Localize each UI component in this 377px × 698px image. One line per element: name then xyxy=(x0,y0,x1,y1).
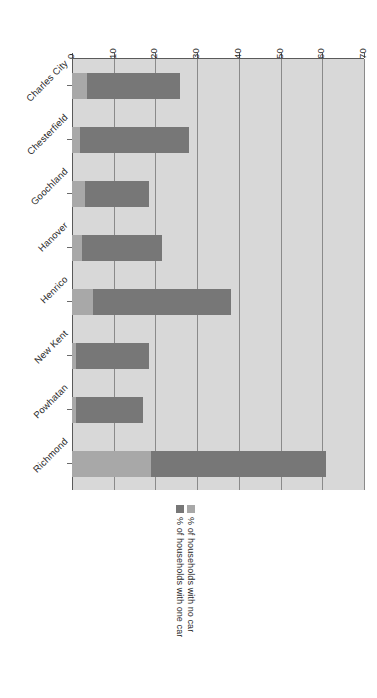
bar-row xyxy=(72,235,364,261)
legend-item[interactable]: % of households with one car xyxy=(175,505,185,637)
bar-stack xyxy=(72,73,180,99)
legend-label: % of households with one car xyxy=(175,517,185,637)
chart-legend: % of households with one car% of househo… xyxy=(185,505,225,685)
category-label-hanover: Hanover xyxy=(20,220,70,270)
bar-row xyxy=(72,397,364,423)
category-label-charles-city: Charles City xyxy=(20,58,70,108)
gridline-70 xyxy=(364,59,365,490)
bar-stack xyxy=(72,397,143,423)
legend-item[interactable]: % of households with no car xyxy=(186,505,196,632)
bar-stack xyxy=(72,451,326,477)
bar-stack xyxy=(72,181,149,207)
bar-segment xyxy=(93,289,231,315)
bar-row xyxy=(72,343,364,369)
category-label-powhatan: Powhatan xyxy=(20,382,70,432)
chart-figure: 010203040506070 Charles CityChesterfield… xyxy=(0,0,377,698)
bar-stack xyxy=(72,127,189,153)
bar-segment xyxy=(72,181,85,207)
legend-label: % of households with no car xyxy=(186,517,196,632)
bar-segment xyxy=(85,181,150,207)
bar-segment xyxy=(76,397,143,423)
bar-series-group xyxy=(72,59,364,490)
category-label-new-kent: New Kent xyxy=(20,328,70,378)
plot-area xyxy=(72,58,364,490)
bar-segment xyxy=(151,451,326,477)
bar-row xyxy=(72,289,364,315)
bar-row xyxy=(72,451,364,477)
bar-segment xyxy=(72,289,93,315)
bar-stack xyxy=(72,289,231,315)
category-label-chesterfield: Chesterfield xyxy=(20,112,70,162)
bar-row xyxy=(72,181,364,207)
bar-row xyxy=(72,73,364,99)
bar-segment xyxy=(72,73,87,99)
bar-segment xyxy=(72,451,151,477)
bar-segment xyxy=(80,127,188,153)
bar-row xyxy=(72,127,364,153)
bar-stack xyxy=(72,343,149,369)
bar-segment xyxy=(76,343,149,369)
bar-segment xyxy=(87,73,181,99)
legend-swatch-icon xyxy=(187,505,195,513)
bar-segment xyxy=(72,235,82,261)
bar-segment xyxy=(82,235,161,261)
legend-swatch-icon xyxy=(176,505,184,513)
category-label-henrico: Henrico xyxy=(20,274,70,324)
bar-segment xyxy=(72,127,80,153)
category-label-goochland: Goochland xyxy=(20,166,70,216)
bar-stack xyxy=(72,235,162,261)
category-label-richmond: Richmond xyxy=(20,436,70,486)
